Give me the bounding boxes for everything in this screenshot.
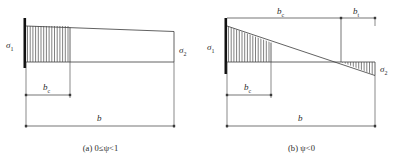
bc-tick-left-a	[25, 94, 27, 96]
b-label-b: b	[298, 113, 303, 123]
bt-top-label-b: bt	[353, 6, 360, 18]
panel-b-drawing: σ1 σ2 bc bt bc b	[201, 0, 402, 157]
b-tick-right-a	[173, 125, 175, 127]
caption-a: (a) 0≤ψ<1	[0, 143, 201, 153]
bc-label-b: bc	[244, 82, 252, 94]
hatch-compression-b	[229, 20, 270, 66]
sigma2-label-b: σ2	[380, 64, 387, 76]
bc-label-a: bc	[43, 82, 51, 94]
panel-case-a: σ1 σ2 bc b (a) 0≤ψ<1	[0, 0, 201, 157]
bt-tick-left-b	[340, 17, 342, 19]
stress-distribution-figure: σ1 σ2 bc b (a) 0≤ψ<1	[0, 0, 402, 157]
stress-profile-line-b	[227, 26, 375, 76]
b-tick-left-a	[25, 125, 27, 127]
sigma1-label-a: σ1	[6, 40, 13, 52]
stress-profile-line-a	[26, 26, 174, 32]
bc-top-label-b: bc	[277, 6, 285, 18]
sigma1-label-b: σ1	[207, 42, 214, 54]
b-tick-left-b	[226, 125, 228, 127]
bc-tick-right-a	[69, 94, 71, 96]
caption-b: (b) ψ<0	[201, 143, 402, 153]
b-tick-right-b	[374, 125, 376, 127]
sigma2-label-a: σ2	[179, 45, 186, 57]
panel-a-drawing: σ1 σ2 bc b	[0, 0, 201, 157]
support-edge-a	[24, 18, 27, 68]
bc-tick-left-b	[226, 94, 228, 96]
b-label-a: b	[97, 113, 102, 123]
hatch-tension-b	[343, 58, 373, 80]
bc-tick-right-b	[270, 94, 272, 96]
panel-case-b: σ1 σ2 bc bt bc b (b) ψ<0	[201, 0, 402, 157]
